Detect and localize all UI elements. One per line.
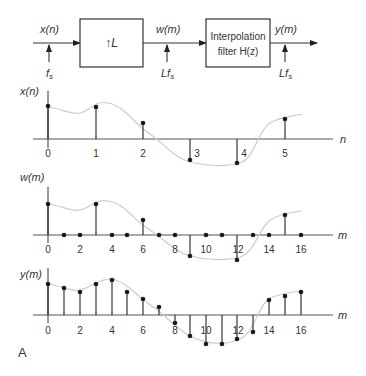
plot-w-ylabel: w(m): [20, 171, 45, 183]
plot-w-of-m: w(m) m 0 2 4 6 8: [20, 171, 347, 262]
svg-text:0: 0: [45, 325, 51, 336]
plot-y-ticks: 0 2 4 6 8 10 12 14 16: [45, 325, 307, 336]
svg-text:2: 2: [140, 148, 146, 159]
svg-text:6: 6: [140, 244, 146, 255]
svg-text:6: 6: [140, 325, 146, 336]
svg-text:16: 16: [295, 325, 307, 336]
plot-x-ticks: 0 1 2 3 4 5: [45, 148, 288, 159]
plot-y-ylabel: y(m): [19, 268, 42, 280]
filter-label-line2: filter H(z): [218, 46, 259, 57]
interpolation-filter-block: [206, 19, 270, 67]
svg-text:4: 4: [241, 148, 247, 159]
svg-text:14: 14: [263, 325, 275, 336]
input-signal-label: x(n): [39, 23, 59, 35]
svg-text:8: 8: [172, 325, 178, 336]
input-rate-label: fs: [46, 67, 53, 81]
panel-label: A: [18, 345, 27, 360]
svg-text:12: 12: [232, 325, 244, 336]
svg-text:10: 10: [200, 325, 212, 336]
svg-text:4: 4: [109, 244, 115, 255]
plot-x-of-n: x(n) n 0 1 2 3 4 5: [19, 85, 346, 166]
svg-text:5: 5: [282, 148, 288, 159]
plot-x-xlabel: n: [340, 133, 346, 145]
svg-text:2: 2: [77, 244, 83, 255]
svg-text:4: 4: [109, 325, 115, 336]
svg-text:8: 8: [172, 244, 178, 255]
filter-label-line1: Interpolation: [210, 31, 265, 42]
intermediate-signal-label: w(m): [156, 23, 181, 35]
svg-text:14: 14: [263, 244, 275, 255]
svg-text:3: 3: [194, 148, 200, 159]
svg-text:12: 12: [232, 244, 244, 255]
svg-text:1: 1: [93, 148, 99, 159]
svg-text:2: 2: [77, 325, 83, 336]
svg-text:0: 0: [45, 148, 51, 159]
plot-w-xlabel: m: [338, 229, 347, 241]
intermediate-rate-label: Lfs: [161, 67, 174, 81]
block-diagram: x(n) fs ↑L w(m) Lfs Interpolation filter…: [33, 19, 317, 81]
diagram-canvas: x(n) fs ↑L w(m) Lfs Interpolation filter…: [0, 0, 366, 376]
plot-x-stems: [46, 104, 287, 165]
svg-text:16: 16: [295, 244, 307, 255]
plot-y-of-m: y(m) m 0 2 4 6 8: [19, 268, 347, 346]
upsampler-label: ↑L: [105, 36, 118, 50]
plot-x-ylabel: x(n): [19, 85, 39, 97]
plot-w-ticks: 0 2 4 6 8 10 12 14 16: [45, 244, 307, 255]
output-rate-label: Lfs: [279, 67, 292, 81]
svg-text:0: 0: [45, 244, 51, 255]
output-signal-label: y(m): [274, 23, 297, 35]
plot-y-xlabel: m: [338, 309, 347, 321]
plot-x-envelope-curve: [48, 102, 302, 165]
svg-text:10: 10: [200, 244, 212, 255]
